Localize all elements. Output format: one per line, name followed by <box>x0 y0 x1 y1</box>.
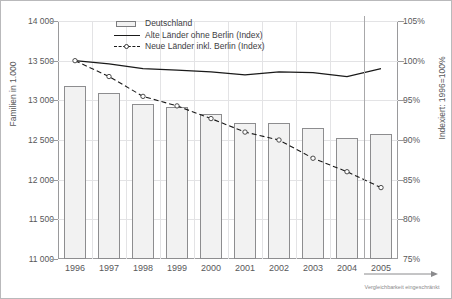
y-axis-right-tick: 105% <box>403 16 425 26</box>
y-axis-right-tick: 80% <box>403 214 420 224</box>
y-axis-right-tickmark <box>398 180 404 181</box>
x-axis-tick-2004: 2004 <box>337 263 357 273</box>
x-axis-tick-1997: 1997 <box>99 263 119 273</box>
y-axis-left-tickmark <box>51 100 58 101</box>
x-axis-tick-2000: 2000 <box>201 263 221 273</box>
x-axis-tick-1996: 1996 <box>65 263 85 273</box>
legend-bar-swatch-icon <box>114 19 140 28</box>
line-neue-laender <box>75 61 381 188</box>
y-axis-left-tickmark <box>51 21 58 22</box>
y-axis-left-tickmark <box>51 140 58 141</box>
legend-label: Deutschland <box>145 18 192 30</box>
legend-solid-line-icon <box>114 31 140 40</box>
y-axis-left-tickmark <box>51 259 58 260</box>
x-axis-tick-1999: 1999 <box>167 263 187 273</box>
y-axis-right-tickmark <box>398 140 404 141</box>
y-axis-right-tick: 90% <box>403 135 420 145</box>
y-axis-right-tickmark <box>398 21 404 22</box>
y-axis-right-title: Indexiert: 1996=100% <box>437 38 447 158</box>
y-axis-left-tickmark <box>51 219 58 220</box>
comparability-break-note: Vergleichbarkeit eingeschränkt <box>365 284 440 290</box>
x-axis-tick-2002: 2002 <box>269 263 289 273</box>
y-axis-right-tick: 75% <box>403 254 420 264</box>
line-neue-laender-markers <box>73 58 383 189</box>
legend-item-alte-laender: Alte Länder ohne Berlin (Index) <box>114 30 265 42</box>
y-axis-right-tickmark <box>398 100 404 101</box>
comparability-break-line <box>364 16 365 259</box>
line-series-layer <box>58 21 398 259</box>
legend-label: Neue Länder inkl. Berlin (Index) <box>145 41 265 53</box>
legend-item-deutschland: Deutschland <box>114 18 265 30</box>
y-axis-right-tick: 85% <box>403 175 420 185</box>
y-axis-right-tickmark <box>398 219 404 220</box>
y-axis-right-tick: 100% <box>403 56 425 66</box>
comparability-arrow <box>363 269 441 279</box>
y-axis-left-tickmark <box>51 61 58 62</box>
line-alte-laender <box>75 61 381 77</box>
x-axis-tick-2001: 2001 <box>235 263 255 273</box>
plot-area <box>58 21 398 259</box>
x-axis-tick-1998: 1998 <box>133 263 153 273</box>
legend-label: Alte Länder ohne Berlin (Index) <box>145 30 263 42</box>
legend-item-neue-laender: Neue Länder inkl. Berlin (Index) <box>114 41 265 53</box>
chart-container: 14 000 13 500 13 000 12 500 12 000 11 50… <box>0 0 452 299</box>
y-axis-left-title: Familien in 1.000 <box>8 39 18 149</box>
x-axis-tick-2003: 2003 <box>303 263 323 273</box>
y-axis-left-tickmark <box>51 180 58 181</box>
legend-dashed-line-icon <box>114 42 140 51</box>
chart-legend: Deutschland Alte Länder ohne Berlin (Ind… <box>114 18 265 53</box>
y-axis-right-tick: 95% <box>403 95 420 105</box>
y-axis-right-tickmark <box>398 61 404 62</box>
